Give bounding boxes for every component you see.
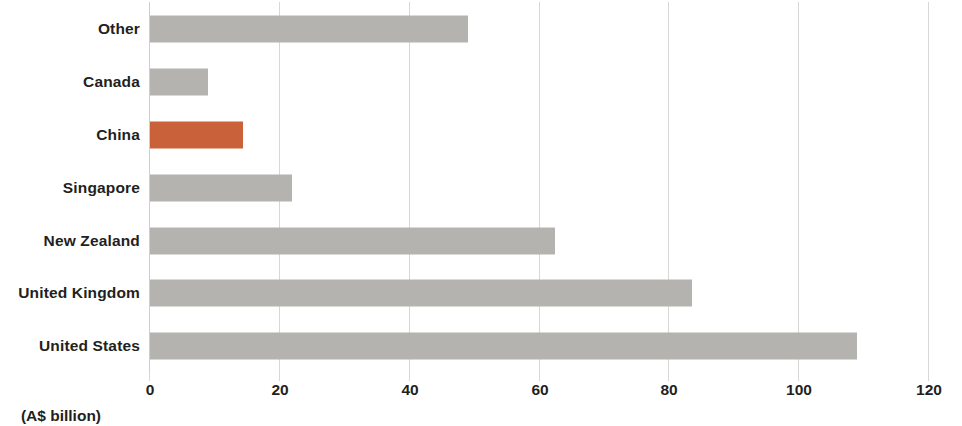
tick-mark — [279, 372, 280, 381]
bar-singapore — [150, 174, 292, 201]
bar-new-zealand — [150, 227, 555, 254]
x-axis: 0 20 40 60 80 100 120 (A$ billion) — [0, 372, 962, 426]
tick-mark — [668, 372, 669, 381]
x-tick-label: 0 — [146, 381, 155, 399]
category-label: United Kingdom — [18, 284, 140, 302]
category-label: Other — [98, 20, 140, 38]
x-tick-label: 100 — [786, 381, 812, 399]
x-axis-title-text: (A$ billion) — [21, 407, 101, 424]
x-tick-label: 40 — [401, 381, 418, 399]
tick-mark — [409, 372, 410, 381]
x-tick-label: 20 — [271, 381, 288, 399]
x-tick-label: 60 — [531, 381, 548, 399]
bar-row: United States — [0, 319, 962, 372]
x-tick-label: 80 — [660, 381, 677, 399]
tick-mark — [149, 372, 150, 381]
bar-row: China — [0, 108, 962, 161]
x-axis-title: (A$ billion) — [0, 407, 962, 425]
bar-row: United Kingdom — [0, 266, 962, 319]
bar-chart: Other Canada China Singapore New Zealand… — [0, 0, 962, 426]
plot-area: Other Canada China Singapore New Zealand… — [0, 0, 962, 372]
bar-united-states — [150, 332, 857, 359]
x-tick-label: 120 — [916, 381, 942, 399]
tick-mark — [928, 372, 929, 381]
bar-row: Singapore — [0, 161, 962, 214]
bar-row: Canada — [0, 55, 962, 108]
category-label: China — [96, 126, 140, 144]
category-label: Canada — [83, 73, 140, 91]
category-label: New Zealand — [44, 232, 140, 250]
bar-united-kingdom — [150, 279, 692, 306]
bar-row: New Zealand — [0, 214, 962, 267]
bar-rows: Other Canada China Singapore New Zealand… — [0, 0, 962, 372]
category-label: Singapore — [63, 179, 140, 197]
bar-other — [150, 15, 468, 42]
tick-mark — [539, 372, 540, 381]
bar-row: Other — [0, 2, 962, 55]
bar-china — [150, 121, 243, 148]
category-label: United States — [39, 337, 140, 355]
bar-canada — [150, 68, 208, 95]
tick-mark — [798, 372, 799, 381]
